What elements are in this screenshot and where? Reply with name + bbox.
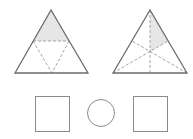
geometry-figure — [0, 0, 193, 139]
right-rectangle — [134, 97, 168, 132]
left-rectangle — [36, 97, 70, 132]
triangle-midline-division — [15, 10, 88, 73]
middle-circle — [88, 100, 115, 127]
shaded-sixth-region — [150, 10, 168, 52]
triangle-median-division — [113, 10, 187, 73]
midline-right — [52, 41, 69, 73]
shaded-top-triangle — [33, 10, 69, 41]
midline-left — [33, 41, 52, 73]
